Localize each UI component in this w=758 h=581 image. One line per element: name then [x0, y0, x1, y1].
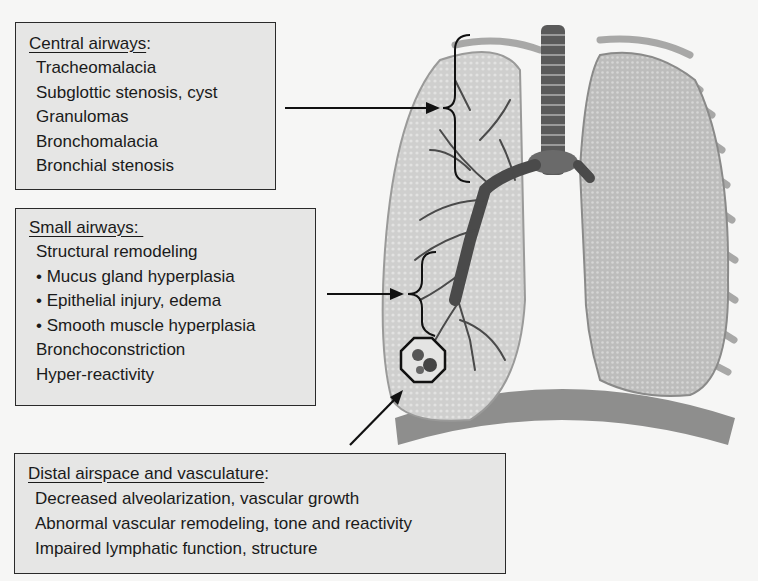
- small-airways-box: Small airways: Structural remodeling • M…: [15, 208, 316, 406]
- central-airways-title: Central airways:: [29, 32, 275, 56]
- small-item: Structural remodeling: [36, 240, 315, 265]
- small-item: • Epithelial injury, edema: [36, 289, 315, 314]
- distal-item: Abnormal vascular remodeling, tone and r…: [35, 511, 505, 536]
- small-item: Bronchoconstriction: [36, 338, 315, 363]
- small-airways-title: Small airways:: [29, 216, 315, 240]
- central-item: Subglottic stenosis, cyst: [36, 81, 275, 106]
- small-item: • Smooth muscle hyperplasia: [36, 314, 315, 339]
- central-airways-box: Central airways: Tracheomalacia Subglott…: [15, 22, 276, 190]
- central-item: Granulomas: [36, 105, 275, 130]
- distal-airspace-title: Distal airspace and vasculature:: [28, 462, 505, 486]
- small-item: • Mucus gland hyperplasia: [36, 265, 315, 290]
- distal-item: Impaired lymphatic function, structure: [35, 536, 505, 561]
- central-item: Bronchomalacia: [36, 130, 275, 155]
- central-item: Bronchial stenosis: [36, 154, 275, 179]
- distal-item: Decreased alveolarization, vascular grow…: [35, 486, 505, 511]
- central-item: Tracheomalacia: [36, 56, 275, 81]
- left-lung: [580, 53, 728, 396]
- small-item: Hyper-reactivity: [36, 363, 315, 388]
- alveoli-octagon: [401, 338, 445, 382]
- distal-airspace-box: Distal airspace and vasculature: Decreas…: [14, 453, 506, 574]
